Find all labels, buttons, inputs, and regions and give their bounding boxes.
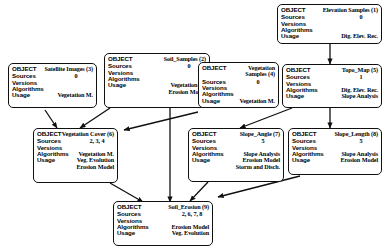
field-label-usage: Usage [12,92,30,98]
object-node-soil-samples[interactable]: OBJECT Soil_Samples (2) Sources 0 Versio… [104,53,210,108]
edge-satellite-to-vegcover [45,110,57,128]
object-node-slope-length[interactable]: OBJECT Slope_Length (8) Sources 5 Versio… [288,128,382,175]
object-node-elevation-samples[interactable]: OBJECT Elevation Samples (1) Sources 0 V… [277,4,382,44]
node-usage-value: Vegetation M. [57,92,93,98]
field-label-object: OBJECT [202,65,227,71]
edge-vegsamples-to-vegcover [124,112,198,130]
node-usage-value: Slope Analysis [341,93,378,99]
node-usage-value: Veg. Evolution [172,230,209,236]
node-title: Slope_Angle (7) [240,131,280,137]
object-node-vegetation-cover[interactable]: OBJECT Vegetation Cover (6) Sources 2, 3… [33,128,118,183]
node-title: Vegetation Samples (4) [227,65,276,78]
object-node-slope-angle[interactable]: OBJECT Slope_Angle (7) Sources 5 Version… [188,128,284,182]
node-sources-value: 0 [344,14,378,20]
diagram-canvas: OBJECT Elevation Samples (1) Sources 0 V… [0,0,386,251]
field-label-usage: Usage [292,157,310,163]
field-label-usage: Usage [37,157,55,163]
node-usage-value: Dig. Elev. Rec. [341,33,378,39]
object-node-topo-map[interactable]: OBJECT Topo_Map (5) Sources 1 Versions A… [282,64,382,108]
node-usage-value: Erosion ModelStorm and Disch. [236,157,280,170]
field-label-usage: Usage [108,82,126,88]
edge-slopeangle-to-soilerosion [190,182,208,201]
object-node-vegetation-samples[interactable]: OBJECT Vegetation Samples (4) Sources 0 … [198,62,279,108]
node-usage-value: Erosion Model [340,157,378,163]
node-sources-value: 1 [344,74,378,80]
node-title: Satellite Images (3) [44,66,93,72]
edge-soilsamples-to-vegcover [80,108,110,128]
node-usage-value: Vegetation M. [239,98,275,104]
field-label-usage: Usage [117,230,135,236]
field-label-usage: Usage [202,98,220,104]
node-sources-value: 0 [241,79,275,85]
object-node-satellite-images[interactable]: OBJECT Satellite Images (3) Sources 0 Ve… [8,63,97,108]
node-title: Vegetation Cover (6) [62,131,114,137]
node-sources-value: 5 [344,138,378,144]
edge-vegcover-to-soilerosion [110,183,143,202]
node-title: Slope_Length (8) [334,131,378,137]
node-sources-value: 5 [246,138,280,144]
node-sources-value: 0 [59,73,93,79]
field-label-usage: Usage [281,33,299,39]
node-sources-value: 2, 3, 4 [80,138,114,144]
object-node-soil-erosion[interactable]: OBJECT Soil_Erosion (9) Sources 2, 6, 7,… [113,201,213,246]
node-sources-value: 2, 6, 7, 8 [175,211,209,217]
node-title: Elevation Samples (1) [323,7,378,13]
field-label-usage: Usage [286,93,304,99]
field-label-usage: Usage [192,157,210,163]
node-usage-value: Veg. EvolutionErosion Model [76,157,114,170]
node-title: Soil_Samples (2) [164,56,206,62]
edge-topomap-to-slopeangle [240,108,292,128]
